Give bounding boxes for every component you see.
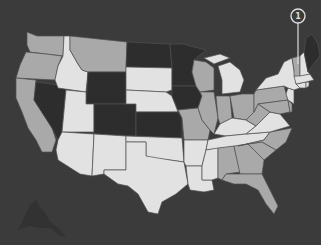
state-SD[interactable] xyxy=(126,67,172,92)
us-choropleth-map: 1 xyxy=(0,0,321,245)
state-CO[interactable] xyxy=(94,104,136,136)
callout-label: 1 xyxy=(295,12,301,21)
state-ND[interactable] xyxy=(126,42,172,68)
state-IA[interactable] xyxy=(172,86,202,110)
state-WY[interactable] xyxy=(86,72,126,104)
state-KS[interactable] xyxy=(136,112,182,138)
